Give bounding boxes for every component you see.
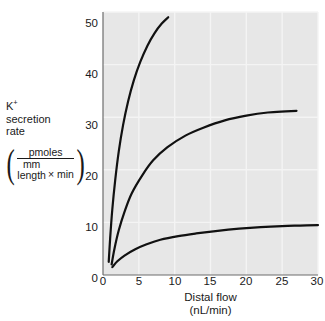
x-tick-label-25: 25 — [272, 275, 292, 287]
figure-container: K+ secretion rate ( pmoles mm length × m… — [0, 0, 325, 321]
high-k-diet-label: High K+ diet — [152, 33, 210, 45]
normal-k-diet-label: Normal K+ diet — [210, 128, 281, 140]
y-tick-label-30: 30 — [76, 119, 98, 131]
x-tick-label-15: 15 — [200, 275, 220, 287]
x-axis-title-line-2: (nL/min) — [103, 304, 318, 317]
x-tick-label-5: 5 — [129, 275, 149, 287]
axis-lines-group — [103, 12, 318, 275]
x-axis-title-line-1: Distal flow — [103, 291, 318, 304]
low-k-diet-label: Low K+ diet — [227, 232, 283, 244]
superscript-plus: + — [13, 98, 17, 107]
left-parenthesis: ( — [7, 147, 15, 181]
denominator-bottom: length — [17, 170, 46, 181]
units-denominator: mm length × min — [17, 159, 74, 181]
y-tick-label-40: 40 — [76, 68, 98, 80]
plot-background-group — [103, 12, 318, 275]
data-curves-group — [109, 17, 318, 267]
x-tick-label-0: 0 — [93, 275, 113, 287]
x-tick-label-20: 20 — [236, 275, 256, 287]
plot-background — [103, 12, 318, 275]
units-numerator: pmoles — [26, 146, 66, 158]
y-tick-label-50: 50 — [76, 17, 98, 29]
units-fraction: pmoles mm length × min — [17, 146, 74, 181]
y-tick-label-10: 10 — [76, 221, 98, 233]
y-tick-label-20: 20 — [76, 170, 98, 182]
y-axis-label-line-1: K+ — [6, 100, 98, 113]
denominator-stack: mm length — [17, 159, 46, 181]
curve-low-k-diet — [112, 225, 318, 267]
x-tick-label-10: 10 — [165, 275, 185, 287]
x-tick-label-30: 30 — [307, 275, 325, 287]
x-axis-title: Distal flow (nL/min) — [103, 291, 318, 317]
curve-high-k-diet — [109, 17, 168, 262]
gridlines-group — [103, 12, 318, 275]
denominator-factor: × min — [46, 168, 74, 181]
